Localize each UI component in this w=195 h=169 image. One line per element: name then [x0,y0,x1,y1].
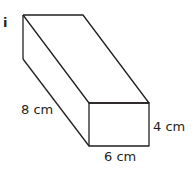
part-label: i [3,16,7,29]
cuboid-drawing [0,0,195,169]
front-face [89,103,149,146]
width-label: 6 cm [104,150,136,163]
length-label: 8 cm [21,103,53,116]
height-label: 4 cm [153,120,185,133]
top-face [23,15,149,103]
